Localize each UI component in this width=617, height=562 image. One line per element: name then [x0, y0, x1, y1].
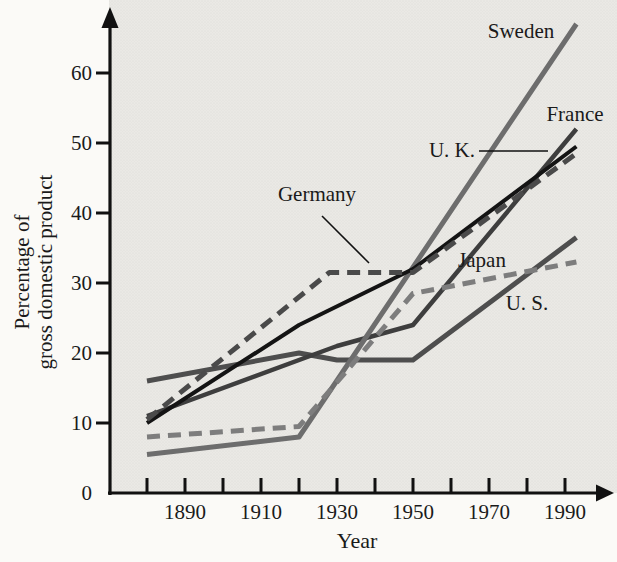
y-tick-label: 10: [71, 411, 92, 435]
line-chart: 0102030405060189019101930195019701990 U.…: [0, 0, 617, 562]
x-tick-label: 1930: [316, 500, 358, 524]
y-tick-label: 60: [71, 61, 92, 85]
x-tick-label: 1970: [468, 500, 510, 524]
y-tick-label: 20: [71, 341, 92, 365]
y-tick-label: 50: [71, 131, 92, 155]
x-tick-label: 1990: [544, 500, 586, 524]
series-label-france: France: [546, 102, 603, 126]
y-axis-title-line2: gross domestic product: [33, 174, 57, 369]
series-label-germany: Germany: [278, 182, 357, 206]
y-tick-label: 40: [71, 201, 92, 225]
series-label-sweden: Sweden: [488, 19, 555, 43]
series-label-us: U. S.: [506, 291, 549, 315]
y-tick-label: 30: [71, 271, 92, 295]
x-tick-label: 1910: [240, 500, 282, 524]
x-tick-label: 1950: [392, 500, 434, 524]
x-axis-title: Year: [337, 528, 378, 553]
y-tick-label: 0: [82, 481, 93, 505]
chart-figure: 0102030405060189019101930195019701990 U.…: [0, 0, 617, 562]
series-label-japan: Japan: [458, 248, 506, 272]
series-label-uk: U. K.: [429, 138, 475, 162]
y-axis-title-line1: Percentage of: [10, 215, 34, 330]
x-tick-label: 1890: [164, 500, 206, 524]
